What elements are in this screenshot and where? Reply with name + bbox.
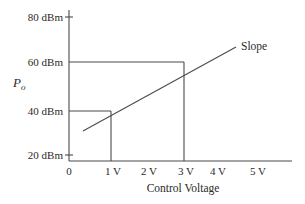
y-tick-label-60: 60 dBm — [28, 56, 64, 68]
slope-label: Slope — [241, 40, 267, 53]
x-tick-label-5v: 5 V — [250, 165, 266, 177]
x-tick-label-3v: 3 V — [178, 165, 194, 177]
x-axis-title: Control Voltage — [147, 182, 220, 195]
chart-canvas: 80 dBm 60 dBm 40 dBm 20 dBm Po 0 1 V 2 V… — [0, 0, 305, 204]
y-tick-label-20: 20 dBm — [28, 149, 64, 161]
x-origin-label: 0 — [66, 165, 72, 177]
slope-line — [83, 47, 236, 131]
y-tick-label-40: 40 dBm — [28, 105, 64, 117]
y-axis-title: Po — [12, 75, 26, 92]
x-tick-label-4v: 4 V — [210, 165, 226, 177]
y-tick-label-80: 80 dBm — [28, 11, 64, 23]
x-tick-label-1v: 1 V — [105, 165, 121, 177]
x-tick-label-2v: 2 V — [141, 165, 157, 177]
